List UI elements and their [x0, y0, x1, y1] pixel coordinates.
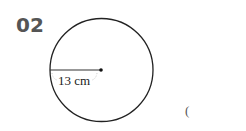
radius-label: 13 cm	[58, 73, 90, 88]
center-point	[99, 68, 103, 72]
answer-paren: (	[185, 103, 189, 119]
circle-figure: 13 cm	[0, 0, 246, 131]
